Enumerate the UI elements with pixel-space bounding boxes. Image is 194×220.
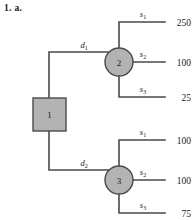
payoff-bottom-s2: 100 — [177, 176, 192, 186]
branch-label-d1: d1 — [80, 40, 87, 51]
decision-node-1-label: 1 — [47, 110, 52, 120]
decision-tree-diagram: 1. a. 1 2 3 d1 d2 s1 — [0, 0, 194, 220]
branch-label-top-s3: s3 — [140, 84, 146, 95]
payoff-top-s1: 250 — [177, 18, 192, 28]
branch-label-bottom-s3-subscript: 3 — [143, 205, 146, 211]
decision-tree-svg: 1 2 3 d1 d2 s1 s2 s3 s1 s2 — [0, 0, 194, 220]
payoff-bottom-s3: 75 — [182, 209, 192, 219]
branch-label-bottom-s2: s2 — [140, 167, 146, 178]
edge-top-s1 — [119, 22, 165, 52]
branch-label-d1-subscript: 1 — [85, 45, 88, 51]
branch-label-top-s3-subscript: 3 — [143, 89, 146, 95]
edge-bottom-s1 — [119, 140, 165, 170]
payoff-top-s2: 100 — [177, 58, 192, 68]
branch-label-d2: d2 — [80, 158, 87, 169]
chance-node-3-label: 3 — [117, 176, 122, 186]
branch-label-top-s1: s1 — [140, 9, 146, 20]
branch-label-bottom-s3: s3 — [140, 200, 146, 211]
payoff-bottom-s1: 100 — [177, 136, 192, 146]
payoff-top-s3: 25 — [182, 93, 192, 103]
branch-label-bottom-s1: s1 — [140, 127, 146, 138]
chance-node-2-label: 2 — [117, 58, 122, 68]
branch-label-top-s2-subscript: 2 — [143, 54, 146, 60]
branch-label-d2-subscript: 2 — [85, 163, 88, 169]
branch-label-top-s2: s2 — [140, 49, 146, 60]
branch-label-top-s1-subscript: 1 — [143, 14, 146, 20]
branch-label-bottom-s2-subscript: 2 — [143, 172, 146, 178]
edge-d1 — [49, 52, 112, 98]
branch-label-bottom-s1-subscript: 1 — [143, 132, 146, 138]
